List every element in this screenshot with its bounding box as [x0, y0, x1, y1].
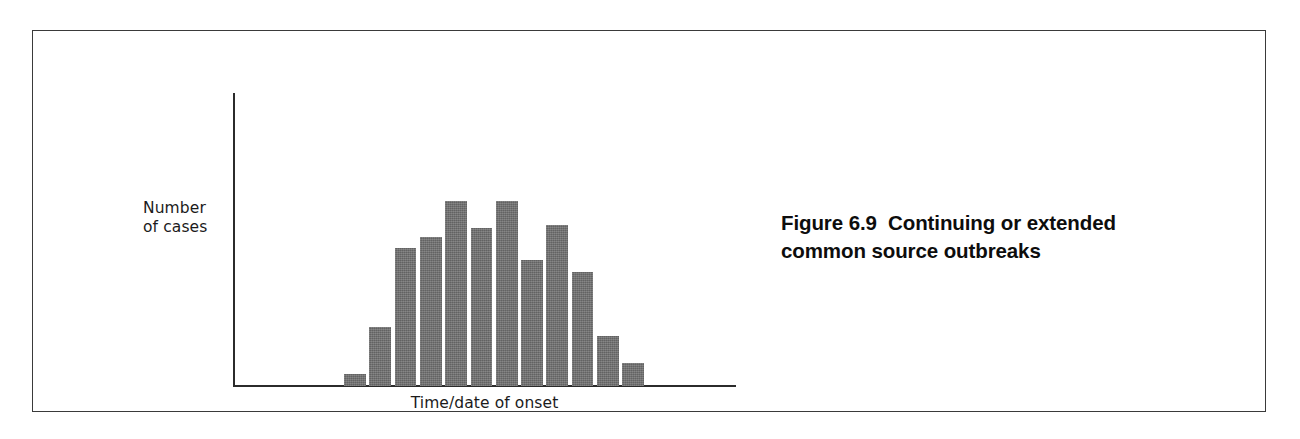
bar [369, 327, 391, 386]
bar [572, 272, 594, 386]
bar [344, 374, 366, 386]
bar [597, 336, 619, 386]
bar [496, 201, 518, 386]
bar [445, 201, 467, 386]
chart-area: Number of cases Time/date of onset [133, 76, 773, 436]
bar [521, 260, 543, 386]
x-axis-label: Time/date of onset [233, 394, 736, 412]
figure-caption-line-2: common source outbreaks [781, 237, 1221, 265]
bar [546, 225, 568, 386]
bar [622, 363, 644, 386]
figure-frame: Number of cases Time/date of onset Figur… [32, 30, 1266, 412]
bar [395, 248, 417, 386]
bar [420, 237, 442, 386]
figure-caption-line-1: Figure 6.9 Continuing or extended [781, 209, 1221, 237]
figure-container: Number of cases Time/date of onset Figur… [0, 0, 1300, 439]
bar [471, 228, 493, 386]
y-axis-label: Number of cases [143, 199, 235, 237]
bar-series [233, 93, 736, 386]
figure-caption: Figure 6.9 Continuing or extended common… [781, 209, 1221, 265]
